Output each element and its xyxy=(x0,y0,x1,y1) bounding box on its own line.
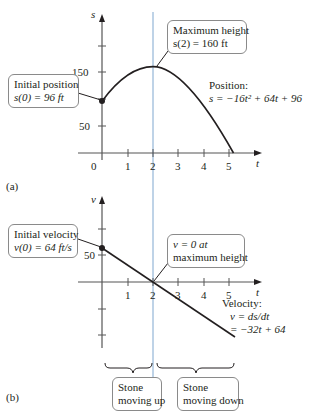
t-axis-arrow-icon xyxy=(254,279,262,285)
x-tick-2: 2 xyxy=(150,289,156,301)
max-height-callout: Maximum height s(2) = 160 ft xyxy=(167,20,247,54)
velocity-equation: Velocity: v = ds/dt = −32t + 64 xyxy=(222,297,286,336)
moving-down-brace xyxy=(157,363,234,373)
x-tick-1: 1 xyxy=(125,289,131,301)
x-tick-4: 4 xyxy=(201,289,207,301)
x-tick-3: 3 xyxy=(175,160,181,172)
v-axis-arrow-icon xyxy=(99,196,105,204)
panel-label-b: (b) xyxy=(6,391,19,403)
x-tick-1: 1 xyxy=(125,160,131,172)
s-axis-arrow-icon xyxy=(99,14,105,22)
zero-velocity-callout: v = 0 at maximum height xyxy=(167,234,245,268)
position-equation: Position: s = −16t² + 64t + 96 xyxy=(209,79,302,105)
v-axis-label: v xyxy=(91,193,96,205)
moving-down-label: Stone moving down xyxy=(177,377,239,411)
initial-position-callout: Initial position s(0) = 96 ft xyxy=(8,74,79,108)
y-tick-50: 50 xyxy=(79,120,91,132)
initial-position-point xyxy=(99,98,105,104)
t-axis-arrow-icon xyxy=(254,150,262,156)
x-tick-4: 4 xyxy=(201,160,207,172)
v-tick-50: 50 xyxy=(84,249,96,261)
x-tick-0: 0 xyxy=(91,160,97,172)
x-tick-3: 3 xyxy=(175,289,181,301)
t-axis-label-a: t xyxy=(256,157,260,169)
moving-up-label: Stone moving up xyxy=(112,377,162,411)
x-tick-2: 2 xyxy=(150,160,156,172)
initial-velocity-point xyxy=(99,245,105,251)
panel-label-a: (a) xyxy=(6,180,18,192)
initial-velocity-callout: Initial velocity v(0) = 64 ft/s xyxy=(8,224,78,258)
velocity-plot xyxy=(78,196,262,373)
x-tick-5: 5 xyxy=(226,160,232,172)
s-axis-label: s xyxy=(91,8,95,20)
moving-up-brace xyxy=(105,363,152,373)
